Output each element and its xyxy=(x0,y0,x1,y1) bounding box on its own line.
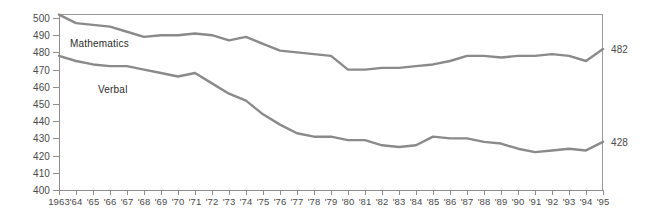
series-line-verbal xyxy=(59,56,603,152)
series-label-verbal: Verbal xyxy=(98,84,128,95)
series-line-mathematics xyxy=(59,15,603,70)
sat-scores-line-chart: 400410420430440450460470480490500 1963'6… xyxy=(0,0,653,220)
series-layer xyxy=(0,0,653,220)
end-value-mathematics: 482 xyxy=(611,43,628,54)
series-label-mathematics: Mathematics xyxy=(70,38,129,49)
end-value-verbal: 428 xyxy=(611,136,628,147)
